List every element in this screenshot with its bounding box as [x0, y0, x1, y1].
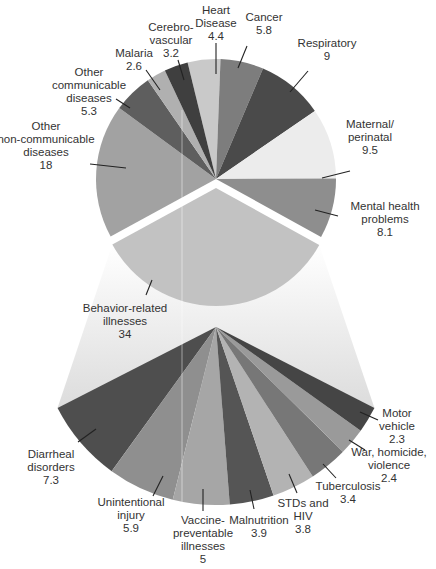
- label-cancer: Cancer5.8: [245, 11, 282, 37]
- label-vaccine-preventable: Vaccine-preventableillnesses5: [173, 514, 233, 566]
- main-pie: [96, 59, 336, 306]
- label-unintentional-injury: Unintentionalinjury5.9: [97, 496, 164, 535]
- leader-line: [323, 464, 336, 478]
- label-mental-health: Mental healthproblems8.1: [350, 200, 419, 239]
- label-diarrheal: Diarrhealdisorders7.3: [27, 448, 74, 487]
- leader-line: [290, 71, 308, 92]
- label-war-homicide-violence: War, homicide,violence2.4: [351, 446, 427, 485]
- label-other-non-communicable: Othernon-communicablediseases18: [0, 120, 95, 172]
- label-heart-disease: HeartDisease4.4: [195, 4, 237, 43]
- label-behavior-related: Behavior-relatedillnesses34: [83, 302, 167, 341]
- label-maternal-perinatal: Maternal/perinatal9.5: [346, 118, 394, 157]
- label-motor-vehicle: Motorvehicle2.3: [379, 407, 415, 446]
- label-malaria: Malaria2.6: [115, 47, 153, 73]
- label-other-communicable: Othercommunicablediseases5.3: [52, 66, 126, 118]
- label-cerebrovascular: Cerebro-vascular3.2: [148, 21, 193, 60]
- label-respiratory: Respiratory9: [298, 37, 357, 63]
